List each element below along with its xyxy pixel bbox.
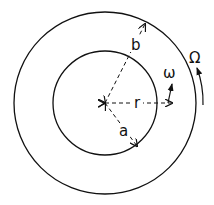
label-r: r	[134, 94, 141, 112]
concentric-cylinder-diagram: b r a ω Ω	[0, 0, 214, 205]
big-omega-arrow	[197, 68, 203, 105]
label-omega-big: Ω	[189, 49, 200, 67]
label-omega-small: ω	[163, 64, 176, 82]
omega-arrow	[168, 84, 172, 103]
label-b: b	[131, 36, 141, 54]
label-a: a	[119, 122, 128, 140]
